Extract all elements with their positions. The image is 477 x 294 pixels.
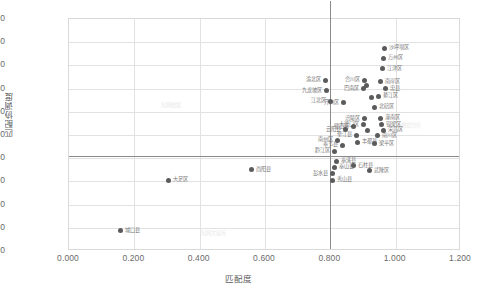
data-point-label: 石柱县: [358, 163, 373, 169]
data-point[interactable]: [362, 116, 367, 121]
data-point[interactable]: [166, 178, 171, 183]
y-tick-label: 0.700: [0, 84, 5, 93]
data-point[interactable]: [376, 94, 381, 99]
data-point[interactable]: [372, 141, 377, 146]
data-point-label: 綦江区: [383, 93, 398, 99]
y-tick-label: 0.800: [0, 60, 5, 69]
plot-area: 知网数据数据分析知网文献库 沙坪坝区万州区江津区南岸区合川区忠县巴南区綦江区渝北…: [68, 18, 460, 250]
y-tick-label: 0.400: [0, 153, 5, 162]
x-tick-label: 0.400: [169, 254, 229, 263]
y-tick-label: 0.900: [0, 37, 5, 46]
data-point-label: 合川区: [345, 78, 360, 84]
data-point-label: 忠县: [390, 86, 400, 92]
y-tick-label: 0.300: [0, 176, 5, 185]
data-point[interactable]: [341, 100, 346, 105]
gridline-horizontal: [69, 42, 459, 43]
y-tick-label: 0.500: [0, 130, 5, 139]
data-point[interactable]: [118, 228, 123, 233]
gridline-horizontal: [69, 158, 459, 159]
y-tick-label: 1.000: [0, 14, 5, 23]
data-point[interactable]: [332, 165, 337, 170]
gridline-horizontal: [69, 135, 459, 136]
data-point-label: 黔江区: [315, 148, 330, 154]
data-point[interactable]: [381, 56, 386, 61]
data-point[interactable]: [378, 116, 383, 121]
data-point[interactable]: [340, 143, 345, 148]
data-point-label: 武隆区: [374, 168, 389, 174]
data-point[interactable]: [369, 95, 374, 100]
data-point-label: 南川区: [382, 133, 397, 139]
data-point-label: 酉阳县: [256, 167, 271, 173]
data-point-label: 城口县: [125, 228, 140, 234]
x-tick-label: 1.200: [430, 254, 477, 263]
mean-coordination-line: [69, 156, 459, 157]
data-point-label: 渝北区: [306, 78, 321, 84]
watermark-text: 知网文献库: [201, 229, 226, 237]
data-point[interactable]: [382, 46, 387, 51]
gridline-vertical: [134, 19, 135, 249]
data-point[interactable]: [365, 128, 370, 133]
x-tick-label: 0.800: [299, 254, 359, 263]
y-tick-label: 0.200: [0, 200, 5, 209]
data-point[interactable]: [324, 88, 329, 93]
data-point[interactable]: [330, 171, 335, 176]
gridline-horizontal: [69, 89, 459, 90]
data-point[interactable]: [362, 78, 367, 83]
y-tick-label: 0.100: [0, 223, 5, 232]
data-point-label: 梁平区: [379, 141, 394, 147]
data-point-label: 巴南区: [344, 86, 359, 92]
data-point-label: 大足区: [173, 177, 188, 183]
data-point-label: 南岸区: [385, 79, 400, 85]
y-tick-label: 0.600: [0, 107, 5, 116]
data-point[interactable]: [364, 83, 369, 88]
data-point-label: 秀山县: [337, 177, 352, 183]
data-point-label: 沙坪坝区: [389, 45, 409, 51]
gridline-vertical: [265, 19, 266, 249]
data-point[interactable]: [375, 133, 380, 138]
data-point[interactable]: [378, 79, 383, 84]
data-point[interactable]: [249, 167, 254, 172]
data-point[interactable]: [323, 78, 328, 83]
data-point[interactable]: [383, 86, 388, 91]
data-point[interactable]: [372, 105, 377, 110]
watermark-text: 知网数据: [161, 101, 181, 109]
data-point[interactable]: [354, 133, 359, 138]
data-point[interactable]: [380, 66, 385, 71]
data-point[interactable]: [330, 178, 335, 183]
data-point[interactable]: [335, 138, 340, 143]
watermark-text: 数据分析: [401, 121, 421, 129]
gridline-vertical: [200, 19, 201, 249]
data-point-label: 北碚区: [379, 104, 394, 110]
x-tick-label: 0.000: [38, 254, 98, 263]
data-point[interactable]: [351, 163, 356, 168]
data-point-label: 江津区: [387, 66, 402, 72]
x-tick-label: 0.600: [234, 254, 294, 263]
data-point[interactable]: [334, 159, 339, 164]
data-point[interactable]: [328, 99, 333, 104]
data-point-label: 垫江县: [337, 132, 352, 138]
data-point[interactable]: [379, 122, 384, 127]
data-point[interactable]: [351, 124, 356, 129]
data-point-label: 彭水县: [313, 171, 328, 177]
data-point-label: 九龙坡区: [302, 88, 322, 94]
gridline-horizontal: [69, 205, 459, 206]
data-point-label: 万州区: [388, 56, 403, 62]
data-point[interactable]: [367, 168, 372, 173]
gridline-horizontal: [69, 181, 459, 182]
x-tick-label: 1.000: [365, 254, 425, 263]
data-point[interactable]: [332, 149, 337, 154]
data-point[interactable]: [381, 128, 386, 133]
scatter-chart: 匹配协调度 匹配度 知网数据数据分析知网文献库 沙坪坝区万州区江津区南岸区合川区…: [0, 0, 477, 294]
gridline-horizontal: [69, 112, 459, 113]
y-tick-label: 0.000: [0, 246, 5, 255]
data-point[interactable]: [355, 140, 360, 145]
x-tick-label: 0.200: [103, 254, 163, 263]
y-axis-label: 匹配协调度: [4, 92, 16, 137]
data-point[interactable]: [343, 127, 348, 132]
x-axis-label: 匹配度: [0, 272, 477, 284]
data-point[interactable]: [361, 122, 366, 127]
